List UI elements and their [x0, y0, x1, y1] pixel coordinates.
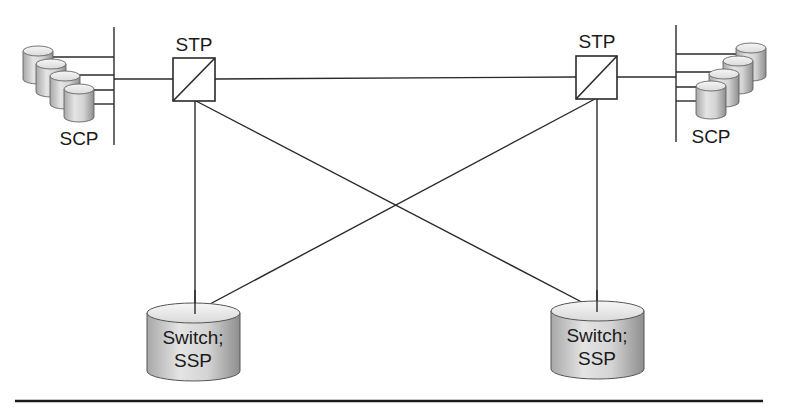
scp-group-right: SCP	[676, 25, 766, 147]
database-cylinder-icon	[64, 84, 94, 122]
scp-group-left: SCP	[23, 27, 114, 149]
ssp-label-left-line2: SSP	[174, 350, 212, 371]
stp-label-right: STP	[579, 31, 616, 52]
stp-node-left: STP	[173, 34, 215, 101]
stp-node-right: STP	[576, 31, 617, 99]
link-stp-left-stp-right	[215, 77, 576, 79]
link-stp-right-ssp-left	[195, 99, 595, 312]
scp-label-left: SCP	[59, 128, 98, 149]
database-cylinder-icon	[696, 81, 726, 119]
scp-label-right: SCP	[691, 126, 730, 147]
stp-label-left: STP	[176, 34, 213, 55]
ssp-node-right: Switch; SSP	[551, 290, 644, 379]
ssp-label-right-line2: SSP	[578, 348, 616, 369]
ssp-label-left-line1: Switch;	[162, 327, 223, 348]
ssp-label-right-line1: Switch;	[566, 325, 627, 346]
stp-switch-icon	[576, 56, 617, 99]
ssp-node-left: Switch; SSP	[147, 290, 240, 381]
stp-switch-icon	[173, 58, 215, 101]
signaling-links	[114, 77, 676, 312]
ss7-network-diagram: SCP SCP	[0, 0, 788, 409]
